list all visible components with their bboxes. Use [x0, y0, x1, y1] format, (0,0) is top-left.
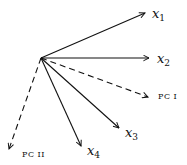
label-pc1: PC I	[158, 92, 177, 101]
vector-x1: x1	[41, 6, 165, 58]
vector-x3: x3	[41, 58, 138, 142]
label-x2: x2	[157, 51, 170, 68]
vector-pc2: PC II	[9, 58, 45, 159]
label-x3: x3	[125, 125, 138, 142]
arrow-x4	[41, 58, 81, 146]
vector-x4: x4	[41, 58, 100, 160]
label-x4: x4	[87, 143, 100, 160]
arrow-x3	[41, 58, 119, 128]
dashed-arrow-pc1	[41, 58, 148, 97]
label-pc2: PC II	[22, 150, 45, 159]
label-x1: x1	[152, 6, 165, 23]
vector-diagram: x1 x2 PC I x3 x4 PC II	[0, 0, 187, 165]
dashed-arrow-pc2	[9, 58, 41, 149]
arrow-x1	[41, 13, 145, 58]
